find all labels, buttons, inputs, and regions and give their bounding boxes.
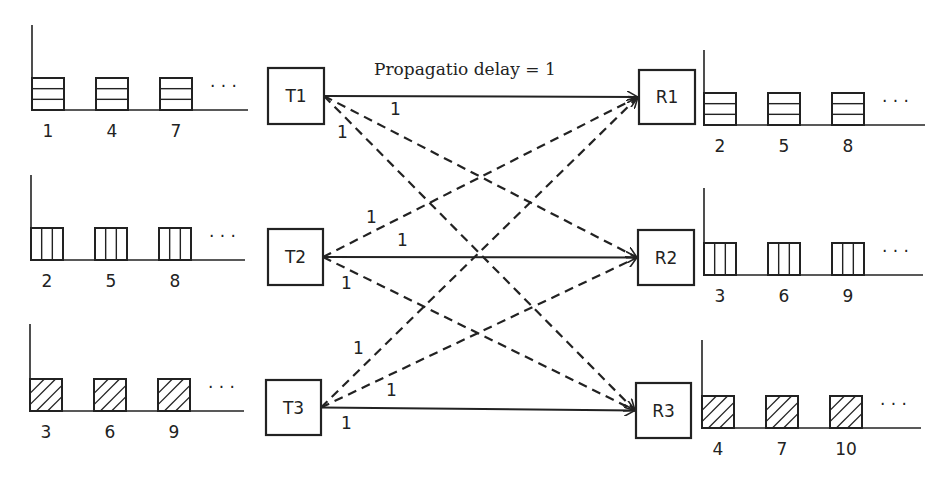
packet-number: 4 bbox=[713, 439, 724, 459]
tx-queue-3: 369· · · bbox=[30, 324, 244, 442]
receiver-node-r1: R1 bbox=[639, 70, 695, 124]
packet-number: 8 bbox=[843, 136, 854, 156]
packet-number: 9 bbox=[169, 422, 180, 442]
packet-2 bbox=[704, 93, 736, 125]
tx-queue-1: 147· · · bbox=[32, 25, 248, 141]
packet-3 bbox=[30, 379, 62, 411]
packet-number: 7 bbox=[171, 121, 182, 141]
ellipsis: · · · bbox=[210, 76, 237, 96]
packet-number: 6 bbox=[779, 286, 790, 306]
packet-2 bbox=[31, 228, 63, 260]
links bbox=[321, 96, 638, 411]
packet-5 bbox=[768, 93, 800, 125]
packet-number: 5 bbox=[106, 271, 117, 291]
packet-6 bbox=[768, 243, 800, 275]
delay-label: 1 bbox=[341, 413, 352, 433]
link-t3-r3 bbox=[321, 408, 635, 411]
transmitter-label: T2 bbox=[284, 247, 306, 267]
link-t1-r1 bbox=[324, 96, 638, 97]
propagation-delay-title: Propagatio delay = 1 bbox=[374, 59, 556, 79]
ellipsis: · · · bbox=[882, 91, 909, 111]
rx-queue-2: 369· · · bbox=[704, 188, 923, 306]
packet-7 bbox=[160, 78, 192, 110]
ellipsis: · · · bbox=[882, 241, 909, 261]
packet-number: 3 bbox=[41, 422, 52, 442]
packet-number: 9 bbox=[843, 286, 854, 306]
packet-number: 10 bbox=[835, 439, 857, 459]
transmitter-node-t1: T1 bbox=[268, 68, 324, 124]
rx-queue-3: 4710· · · bbox=[702, 340, 921, 459]
packet-9 bbox=[158, 379, 190, 411]
ellipsis: · · · bbox=[209, 226, 236, 246]
packet-10 bbox=[830, 396, 862, 428]
packet-8 bbox=[832, 93, 864, 125]
link-t3-r1 bbox=[321, 97, 638, 408]
packet-8 bbox=[159, 228, 191, 260]
packet-3 bbox=[704, 243, 736, 275]
packet-number: 7 bbox=[777, 439, 788, 459]
transmitter-label: T3 bbox=[282, 398, 304, 418]
ellipsis: · · · bbox=[880, 394, 907, 414]
network-diagram: Propagatio delay = 1 11111111 T1T2T3R1R2… bbox=[0, 0, 948, 483]
packet-6 bbox=[94, 379, 126, 411]
delay-label: 1 bbox=[337, 122, 348, 142]
packet-number: 2 bbox=[715, 136, 726, 156]
link-t2-r2 bbox=[323, 257, 637, 258]
packet-queues: 147· · ·258· · ·369· · ·258· · ·369· · ·… bbox=[30, 25, 925, 459]
delay-label: 1 bbox=[397, 230, 408, 250]
rx-queue-1: 258· · · bbox=[704, 50, 925, 156]
tx-queue-2: 258· · · bbox=[31, 175, 245, 291]
packet-number: 8 bbox=[170, 271, 181, 291]
delay-label: 1 bbox=[353, 338, 364, 358]
packet-1 bbox=[32, 78, 64, 110]
link-t1-r3 bbox=[324, 96, 635, 411]
ellipsis: · · · bbox=[208, 377, 235, 397]
packet-number: 2 bbox=[42, 271, 53, 291]
packet-7 bbox=[766, 396, 798, 428]
packet-4 bbox=[96, 78, 128, 110]
packet-9 bbox=[832, 243, 864, 275]
delay-label: 1 bbox=[366, 207, 377, 227]
receiver-node-r2: R2 bbox=[638, 230, 694, 285]
packet-number: 6 bbox=[105, 422, 116, 442]
delay-label: 1 bbox=[341, 273, 352, 293]
link-t2-r3 bbox=[323, 257, 635, 411]
receiver-node-r3: R3 bbox=[636, 383, 691, 438]
packet-number: 1 bbox=[43, 121, 54, 141]
transmitter-label: T1 bbox=[284, 86, 306, 106]
packet-4 bbox=[702, 396, 734, 428]
packet-5 bbox=[95, 228, 127, 260]
receiver-label: R2 bbox=[655, 248, 678, 268]
packet-number: 5 bbox=[779, 136, 790, 156]
packet-number: 3 bbox=[715, 286, 726, 306]
receiver-label: R1 bbox=[656, 87, 679, 107]
transmitter-node-t3: T3 bbox=[266, 380, 321, 435]
transmitter-node-t2: T2 bbox=[268, 229, 323, 285]
receiver-label: R3 bbox=[652, 401, 675, 421]
delay-label: 1 bbox=[390, 99, 401, 119]
packet-number: 4 bbox=[107, 121, 118, 141]
delay-label: 1 bbox=[386, 380, 397, 400]
